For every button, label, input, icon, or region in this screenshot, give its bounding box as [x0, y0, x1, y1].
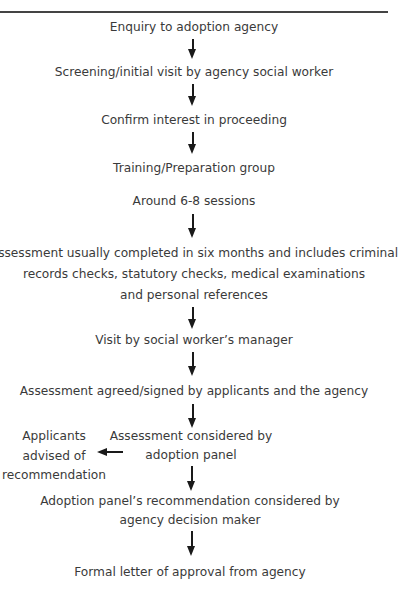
- step-text: Around 6-8 sessions: [133, 191, 256, 211]
- step-manager-visit: Visit by social worker’s manager: [95, 330, 293, 350]
- step-enquiry: Enquiry to adoption agency: [110, 17, 278, 37]
- arrow-down-icon: [188, 214, 198, 238]
- arrow-down-icon: [187, 531, 197, 556]
- step-text: Screening/initial visit by agency social…: [55, 62, 333, 82]
- arrow-down-icon: [188, 84, 198, 106]
- step-text: Confirm interest in proceeding: [101, 110, 287, 130]
- step-training: Training/Preparation group: [113, 158, 275, 178]
- side-text-line: advised of: [2, 447, 106, 467]
- step-text-line: Assessment considered by: [110, 427, 273, 446]
- step-text: Formal letter of approval from agency: [74, 562, 306, 582]
- step-text: Assessment agreed/signed by applicants a…: [20, 381, 369, 401]
- side-text-line: recommendation: [2, 466, 106, 486]
- step-text-line: Adoption panel’s recommendation consider…: [40, 492, 340, 511]
- step-decision-maker: Adoption panel’s recommendation consider…: [40, 492, 340, 530]
- step-approval: Formal letter of approval from agency: [74, 562, 306, 582]
- side-text-line: Applicants: [2, 427, 106, 447]
- step-text: Enquiry to adoption agency: [110, 17, 278, 37]
- step-text-line: adoption panel: [110, 446, 273, 465]
- step-text-line: records checks, statutory checks, medica…: [0, 264, 398, 285]
- arrow-down-icon: [187, 466, 197, 491]
- arrow-down-icon: [188, 307, 198, 329]
- step-assessment: Assessment usually completed in six mont…: [0, 243, 398, 306]
- step-agreed-signed: Assessment agreed/signed by applicants a…: [20, 381, 369, 401]
- step-panel: Assessment considered by adoption panel: [110, 427, 273, 465]
- step-text: Training/Preparation group: [113, 158, 275, 178]
- arrow-down-icon: [188, 404, 198, 428]
- step-screening: Screening/initial visit by agency social…: [55, 62, 333, 82]
- step-confirm: Confirm interest in proceeding: [101, 110, 287, 130]
- arrow-down-icon: [188, 352, 198, 376]
- side-applicants-advised: Applicants advised of recommendation: [2, 427, 106, 486]
- arrow-down-icon: [188, 132, 198, 154]
- step-text-line: agency decision maker: [40, 511, 340, 530]
- step-text-line: and personal references: [0, 285, 398, 306]
- top-rule: [0, 11, 388, 13]
- step-text-line: Assessment usually completed in six mont…: [0, 243, 398, 264]
- arrow-down-icon: [188, 39, 198, 59]
- step-sessions: Around 6-8 sessions: [133, 191, 256, 211]
- clipped-heading-fragment: [175, 0, 225, 2]
- step-text: Visit by social worker’s manager: [95, 330, 293, 350]
- arrow-left-icon: [97, 447, 123, 457]
